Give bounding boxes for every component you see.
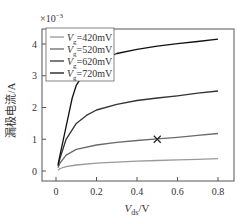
x-tick-label: 0 <box>54 186 59 197</box>
y-axis-title: 漏极电流/A <box>4 82 17 137</box>
y-tick-label: 0 <box>32 166 37 177</box>
x-tick-label: 0.2 <box>90 186 103 197</box>
y-multiplier: ×10−3 <box>40 12 64 24</box>
y-tick-label: 1 <box>32 134 37 145</box>
x-tick-label: 0.6 <box>171 186 184 197</box>
series-line <box>58 91 218 166</box>
y-tick-label: 3 <box>32 70 37 81</box>
y-tick-label: 2 <box>32 102 37 113</box>
y-tick-label: 4 <box>32 39 37 50</box>
x-tick-label: 0.8 <box>212 186 225 197</box>
x-tick-label: 0.4 <box>131 186 144 197</box>
x-axis-title: Vds/V <box>125 202 150 217</box>
chart: 01234 00.20.40.60.8 ×10−3 漏极电流/A Vds/V V… <box>0 0 251 224</box>
series-line <box>58 159 218 171</box>
series-line <box>58 134 218 168</box>
legend: Vg=420mVVg=520mVVg=620mVVg=720mV <box>46 28 114 82</box>
x-axis: 00.20.40.60.8 <box>54 177 225 197</box>
y-axis: 01234 <box>32 39 46 177</box>
